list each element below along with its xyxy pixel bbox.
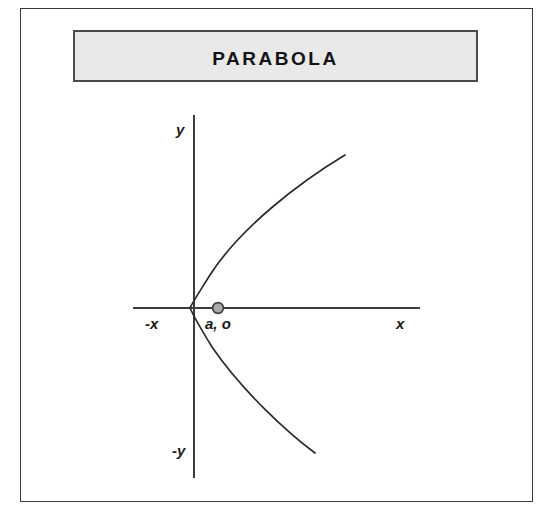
x-axis-label: x [396,316,404,331]
figure-outer-frame [20,8,533,502]
title-banner: Parabola [73,30,478,82]
parabola-figure: Parabola y -y -x x a, o [0,0,539,519]
negative-x-axis-label: -x [145,316,158,331]
negative-y-axis-label: -y [172,443,185,458]
y-axis-label: y [176,122,184,137]
focus-point-label: a, o [205,316,231,331]
page-title: Parabola [212,43,338,70]
